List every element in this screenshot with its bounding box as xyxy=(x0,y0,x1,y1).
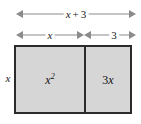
tile-three-x-label: 3x xyxy=(102,74,113,86)
dimension-segment-three: 3 xyxy=(84,25,136,45)
dimension-segment-three-label: 3 xyxy=(109,30,119,41)
tile-three-x: 3x xyxy=(86,47,130,112)
tile-three-x-variable: x xyxy=(108,73,113,87)
arrow-head-left-icon xyxy=(16,10,23,18)
area-model-diagram: x+3 x 3 x x2 3x xyxy=(0,0,141,124)
tile-x-squared: x2 xyxy=(16,47,86,112)
arrow-head-left-icon xyxy=(16,31,23,39)
dimension-height-label: x xyxy=(2,73,14,84)
dimension-segment-x: x xyxy=(16,25,84,45)
total-variable-term: x xyxy=(66,8,71,20)
arrow-head-right-icon xyxy=(129,31,136,39)
dimension-total-width: x+3 xyxy=(16,4,136,24)
arrow-head-right-icon xyxy=(129,10,136,18)
area-rectangle: x2 3x xyxy=(14,45,132,114)
total-constant-term: 3 xyxy=(81,8,87,20)
total-operator: + xyxy=(73,8,79,20)
tile-x-squared-label: x2 xyxy=(45,74,54,86)
arrow-head-left-icon xyxy=(84,31,91,39)
arrow-head-right-icon xyxy=(77,31,84,39)
dimension-total-label: x+3 xyxy=(64,9,89,20)
dimension-segment-x-label: x xyxy=(46,30,55,41)
tile-x-squared-exponent: 2 xyxy=(51,72,55,81)
